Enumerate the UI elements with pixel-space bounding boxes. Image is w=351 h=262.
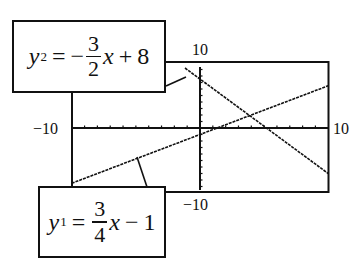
- ymin-label: −10: [183, 197, 208, 213]
- y1-fraction: 3 4: [92, 198, 107, 246]
- y2-fraction: 3 2: [86, 33, 101, 81]
- y2-equals: =: [52, 43, 66, 70]
- y1-pointer: [137, 157, 147, 187]
- y2-constant: 8: [137, 43, 149, 70]
- line-y2: [185, 68, 328, 174]
- y2-numerator: 3: [88, 33, 99, 55]
- y2-subscript: 2: [40, 49, 47, 65]
- y2-denominator: 2: [88, 58, 99, 80]
- y1-numerator: 3: [94, 198, 105, 220]
- xmin-label: −10: [33, 121, 58, 137]
- ymax-label: 10: [192, 42, 208, 58]
- y2-equation-callout: y2 = − 3 2 x + 8: [12, 20, 166, 93]
- y2-sign: −: [70, 43, 84, 70]
- y1-equation: y1 = 3 4 x − 1: [49, 198, 156, 246]
- y1-equation-callout: y1 = 3 4 x − 1: [38, 186, 166, 258]
- xmax-label: 10: [333, 121, 349, 137]
- y2-equation: y2 = − 3 2 x + 8: [29, 33, 149, 81]
- y1-operator: −: [125, 209, 139, 236]
- y1-var: y: [49, 209, 60, 236]
- y1-denominator: 4: [94, 224, 105, 246]
- y2-pointer: [166, 77, 186, 86]
- y1-constant: 1: [143, 209, 155, 236]
- y1-subscript: 1: [60, 214, 67, 230]
- y2-var: y: [29, 43, 40, 70]
- y2-operator: +: [119, 43, 133, 70]
- y1-x: x: [109, 209, 120, 236]
- y2-x: x: [103, 43, 114, 70]
- y1-equals: =: [72, 209, 86, 236]
